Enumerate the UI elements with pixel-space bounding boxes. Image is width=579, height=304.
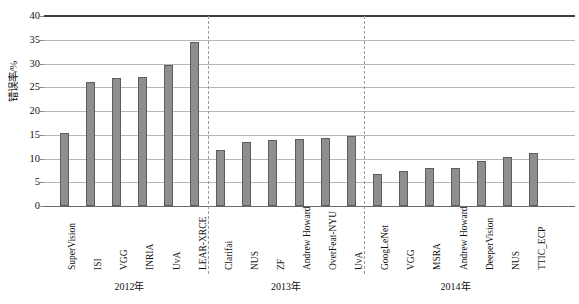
bar bbox=[321, 138, 330, 206]
bar bbox=[425, 168, 434, 206]
bar bbox=[138, 77, 147, 206]
bar bbox=[242, 142, 251, 206]
y-tick-label-0: 0 bbox=[10, 201, 40, 211]
bar bbox=[295, 139, 304, 206]
gridline-30 bbox=[44, 64, 575, 65]
y-tick-label-40: 40 bbox=[10, 11, 40, 21]
gridline-5 bbox=[44, 182, 575, 183]
y-tick-35 bbox=[39, 40, 44, 41]
x-tick-label: UvA bbox=[173, 252, 182, 270]
x-tick-label: TTIC_ECP bbox=[538, 227, 547, 270]
x-tick-label: VGG bbox=[407, 249, 416, 270]
bar bbox=[503, 157, 512, 206]
bar bbox=[86, 82, 95, 206]
x-tick-label: Andrew Howard bbox=[460, 206, 469, 270]
group-label: 2013年 bbox=[246, 278, 326, 293]
bar-chart: 0510152025303540 错误率/% SuperVisionISIVGG… bbox=[0, 0, 579, 304]
bar bbox=[190, 42, 199, 206]
x-tick-label: SuperVision bbox=[68, 223, 77, 270]
bar bbox=[347, 136, 356, 206]
bar bbox=[112, 78, 121, 206]
x-tick-label: ZF bbox=[277, 259, 286, 270]
group-year-labels: 2012年2013年2014年 bbox=[0, 278, 579, 294]
bar bbox=[529, 153, 538, 206]
y-tick-25 bbox=[39, 87, 44, 88]
x-tick-label: LEAR-XRCE bbox=[199, 217, 208, 270]
bar bbox=[477, 161, 486, 206]
x-tick-label: OverFeat-NYU bbox=[329, 211, 338, 270]
y-tick-0 bbox=[39, 206, 44, 207]
y-axis-title: 错误率/% bbox=[5, 47, 20, 117]
x-tick-label: Clarifai bbox=[225, 241, 234, 270]
bar bbox=[451, 168, 460, 206]
bar bbox=[373, 174, 382, 206]
x-tick-label: GoogLeNet bbox=[381, 225, 390, 270]
plot-area bbox=[44, 16, 575, 206]
x-tick-label: MSRA bbox=[433, 243, 442, 270]
y-tick-5 bbox=[39, 182, 44, 183]
x-tick-label: NUS bbox=[251, 251, 260, 270]
y-tick-20 bbox=[39, 111, 44, 112]
x-tick-label: UvA bbox=[355, 252, 364, 270]
x-tick-label: INRIA bbox=[146, 244, 155, 270]
bar bbox=[216, 150, 225, 206]
y-tick-40 bbox=[39, 16, 44, 17]
y-tick-label-10: 10 bbox=[10, 154, 40, 164]
gridline-35 bbox=[44, 40, 575, 41]
y-tick-30 bbox=[39, 64, 44, 65]
y-tick-10 bbox=[39, 159, 44, 160]
x-axis-category-labels: SuperVisionISIVGGINRIAUvALEAR-XRCEClarif… bbox=[44, 210, 575, 272]
group-label: 2012年 bbox=[89, 278, 169, 293]
y-tick-label-35: 35 bbox=[10, 35, 40, 45]
x-tick-label: ISI bbox=[94, 258, 103, 270]
x-tick-label: Andrew Howard bbox=[303, 206, 312, 270]
gridline-10 bbox=[44, 159, 575, 160]
bar bbox=[164, 65, 173, 206]
bar bbox=[60, 133, 69, 206]
gridline-15 bbox=[44, 135, 575, 136]
bar bbox=[399, 171, 408, 206]
x-tick-label: DeeperVision bbox=[486, 218, 495, 270]
bar bbox=[268, 140, 277, 207]
y-tick-15 bbox=[39, 135, 44, 136]
y-tick-label-15: 15 bbox=[10, 130, 40, 140]
x-tick-label: NUS bbox=[512, 251, 521, 270]
gridline-25 bbox=[44, 87, 575, 88]
y-tick-label-5: 5 bbox=[10, 177, 40, 187]
gridline-20 bbox=[44, 111, 575, 112]
group-label: 2014年 bbox=[416, 278, 496, 293]
x-tick-label: VGG bbox=[120, 249, 129, 270]
